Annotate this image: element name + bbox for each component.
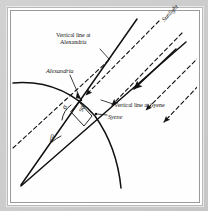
sunlight-ray-2 [112,33,182,105]
vls-pointer [101,100,113,104]
sunlight-ray-1 [86,21,159,95]
figure-frame: Vertical line at Alexandria Alexandria V… [0,0,208,211]
syene-point-dot [95,113,97,115]
alexandria-point-dot [80,99,82,101]
label-vla-line1: Vertical line at [56,31,90,38]
label-angle-beta: β [50,134,54,143]
label-vertical-line-syene: Vertical line at Syene [114,101,165,108]
syene-pointer [97,114,107,115]
vla-pointer [100,49,110,60]
sunlight-ray-4 [164,81,203,122]
label-vla-line2: Alexandria [60,38,87,45]
alexandria-pointer-head [76,92,81,99]
label-vertical-line-alexandria: Vertical line at Alexandria [56,31,90,45]
label-syene: Syene [108,113,122,120]
eratosthenes-diagram [0,0,208,211]
label-alexandria: Alexandria [46,67,73,74]
sunlight-solid-ray [134,49,176,89]
